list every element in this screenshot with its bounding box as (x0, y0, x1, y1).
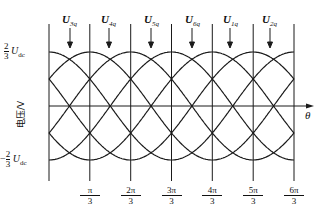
x-tick-label: 6π3 (284, 185, 304, 206)
voltage-waveform-diagram: 电压/V θ 23 Udc −23 Udc π3 2π3 3π3 4π3 5π3… (0, 0, 322, 213)
x-axis-label: θ (305, 110, 310, 121)
x-tick-label: π3 (80, 185, 100, 206)
signal-label-u1q: U1q (223, 14, 238, 28)
signal-label-u4q: U4q (101, 14, 116, 28)
signal-label-u5q: U5q (144, 14, 159, 28)
x-tick-label: 5π3 (243, 185, 263, 206)
signal-label-u6q: U6q (185, 14, 200, 28)
top-level-label: 23 Udc (4, 42, 25, 61)
x-tick-label: 3π3 (162, 185, 182, 206)
waveform-plot (0, 0, 322, 213)
x-tick-label: 2π3 (121, 185, 141, 206)
y-axis-label: 电压/V (14, 101, 27, 128)
bottom-level-label: −23 Udc (0, 150, 26, 169)
x-tick-label: 4π3 (202, 185, 222, 206)
signal-label-u2q: U2q (262, 14, 277, 28)
signal-label-u3q: U3q (62, 14, 77, 28)
